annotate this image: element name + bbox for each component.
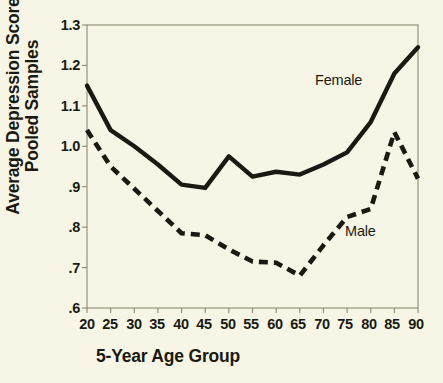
plot-frame xyxy=(87,25,418,308)
axes-frame xyxy=(82,25,418,313)
y-axis-ticks xyxy=(82,25,87,308)
x-axis-ticks xyxy=(87,308,418,313)
depression-score-line-chart: Average Depression Score Pooled Samples … xyxy=(0,0,443,383)
plot-area xyxy=(0,0,443,383)
series-line-female xyxy=(87,47,418,188)
series-line-male xyxy=(87,130,418,276)
